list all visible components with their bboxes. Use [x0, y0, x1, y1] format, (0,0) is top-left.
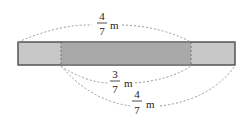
svg-text:7: 7 — [99, 25, 105, 37]
overlap-segment — [61, 42, 191, 65]
fraction-bar-diagram: 4 7 m 3 7 m 4 7 m — [0, 0, 249, 124]
svg-text:7: 7 — [134, 104, 140, 116]
svg-text:4: 4 — [99, 10, 105, 22]
svg-text:7: 7 — [112, 83, 118, 95]
svg-text:3: 3 — [112, 68, 118, 80]
inner-fraction-label: 3 7 m — [110, 68, 133, 95]
svg-text:m: m — [124, 77, 133, 89]
svg-text:m: m — [146, 98, 155, 110]
svg-text:m: m — [110, 19, 119, 31]
bottom-fraction-label: 4 7 m — [132, 88, 155, 116]
svg-text:4: 4 — [134, 88, 140, 100]
top-fraction-label: 4 7 m — [97, 10, 119, 37]
